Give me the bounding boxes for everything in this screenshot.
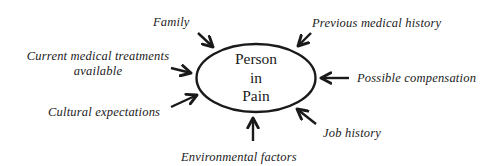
center-node-line-1: Person xyxy=(206,50,306,69)
center-node-line-2: in xyxy=(206,69,306,88)
factor-label-current-medical-treatments: Current medical treatments available xyxy=(22,49,174,79)
cultural-expectations-arrow xyxy=(171,95,197,107)
current-medical-treatments-arrow xyxy=(171,68,191,73)
factor-label-environmental-factors: Environmental factors xyxy=(181,150,297,165)
factor-label-possible-compensation: Possible compensation xyxy=(357,71,476,86)
family-arrow xyxy=(198,33,213,47)
center-node-line-3: Pain xyxy=(206,87,306,106)
factor-label-line: available xyxy=(22,64,174,79)
previous-medical-history-arrow xyxy=(298,33,311,46)
factor-label-previous-medical-history: Previous medical history xyxy=(312,16,441,31)
job-history-arrow xyxy=(297,109,316,124)
factor-label-job-history: Job history xyxy=(323,126,381,141)
factor-label-line: Current medical treatments xyxy=(22,49,174,64)
center-node-label: Person in Pain xyxy=(206,50,306,106)
pain-factors-diagram: Person in Pain Family Current medical tr… xyxy=(0,0,497,166)
factor-label-family: Family xyxy=(153,15,190,30)
factor-label-cultural-expectations: Cultural expectations xyxy=(48,105,160,120)
